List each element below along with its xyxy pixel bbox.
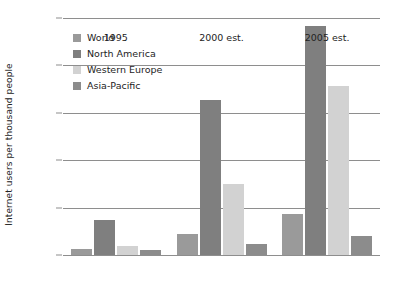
legend: WorldNorth AmericaWestern EuropeAsia-Pac… xyxy=(73,31,162,92)
legend-item-label: North America xyxy=(87,48,156,59)
legend-item: World xyxy=(73,31,162,44)
bar xyxy=(305,26,326,255)
bar xyxy=(177,234,198,255)
gridline xyxy=(63,255,380,256)
bar xyxy=(71,249,92,255)
bar xyxy=(246,244,267,255)
y-axis-tick-mark xyxy=(56,255,62,256)
y-axis-tick-mark xyxy=(56,18,62,19)
legend-swatch-icon xyxy=(73,82,81,90)
y-axis-tick-mark xyxy=(56,207,62,208)
y-axis-tick-mark xyxy=(56,65,62,66)
y-axis-tick-mark xyxy=(56,160,62,161)
bar-chart: Internet users per thousand people 01503… xyxy=(0,0,394,289)
gridline xyxy=(63,18,380,19)
legend-swatch-icon xyxy=(73,34,81,42)
legend-item-label: Western Europe xyxy=(87,64,162,75)
bar xyxy=(117,246,138,255)
bar xyxy=(328,86,349,255)
bar xyxy=(140,250,161,255)
bar xyxy=(200,100,221,255)
y-axis-title: Internet users per thousand people xyxy=(0,0,18,289)
legend-item: Asia-Pacific xyxy=(73,79,162,92)
legend-swatch-icon xyxy=(73,66,81,74)
legend-item-label: World xyxy=(87,32,114,43)
x-axis-tick-label: 2005 est. xyxy=(305,32,350,43)
y-axis-tick-mark xyxy=(56,112,62,113)
bar xyxy=(223,184,244,255)
bar xyxy=(351,236,372,255)
legend-swatch-icon xyxy=(73,50,81,58)
bar xyxy=(94,220,115,255)
legend-item-label: Asia-Pacific xyxy=(87,80,141,91)
legend-item: North America xyxy=(73,47,162,60)
legend-item: Western Europe xyxy=(73,63,162,76)
bar xyxy=(282,214,303,255)
x-axis-tick-label: 2000 est. xyxy=(199,32,244,43)
